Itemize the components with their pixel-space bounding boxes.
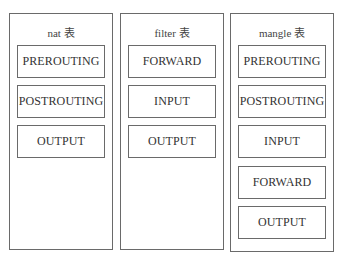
chain-input: INPUT <box>128 85 216 118</box>
mangle-table: mangle 表 PREROUTING POSTROUTING INPUT FO… <box>230 13 334 252</box>
mangle-table-title: mangle 表 <box>231 24 333 40</box>
chain-postrouting: POSTROUTING <box>17 85 105 118</box>
nat-table-title: nat 表 <box>10 24 112 40</box>
chain-postrouting: POSTROUTING <box>238 85 326 118</box>
chain-output: OUTPUT <box>238 206 326 239</box>
chain-forward: FORWARD <box>128 45 216 78</box>
chain-output: OUTPUT <box>128 125 216 158</box>
nat-table: nat 表 PREROUTING POSTROUTING OUTPUT <box>9 13 113 250</box>
filter-table: filter 表 FORWARD INPUT OUTPUT <box>120 13 224 250</box>
chain-prerouting: PREROUTING <box>238 45 326 78</box>
chain-output: OUTPUT <box>17 125 105 158</box>
filter-table-title: filter 表 <box>121 24 223 40</box>
chain-forward: FORWARD <box>238 166 326 199</box>
chain-input: INPUT <box>238 125 326 158</box>
chain-prerouting: PREROUTING <box>17 45 105 78</box>
